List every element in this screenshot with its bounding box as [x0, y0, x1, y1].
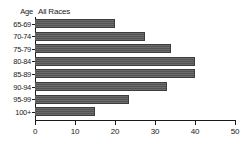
x-axis-tick-mark — [155, 121, 156, 125]
plot-area — [35, 19, 235, 119]
bar — [35, 19, 115, 28]
bar — [35, 107, 95, 116]
x-axis-tick-mark — [195, 121, 196, 125]
bar — [35, 82, 167, 91]
x-axis-tick-label: 40 — [183, 127, 207, 137]
y-axis-tick-label: 100+ — [3, 108, 31, 117]
x-axis-tick-mark — [35, 121, 36, 125]
y-axis-tick-label: 85-89 — [3, 70, 31, 79]
chart-header: Age All Races — [0, 7, 247, 19]
bar-chart: Age All Races 65-6970-7475-7980-8485-899… — [0, 0, 247, 141]
x-axis-tick-label: 0 — [23, 127, 47, 137]
y-axis-tick-label: 80-84 — [3, 57, 31, 66]
bar — [35, 57, 195, 66]
y-axis-tick-label: 75-79 — [3, 45, 31, 54]
bar — [35, 44, 171, 53]
y-axis-tick-label: 90-94 — [3, 83, 31, 92]
y-axis-tick-label: 95-99 — [3, 95, 31, 104]
x-axis-line — [35, 120, 236, 121]
bar — [35, 32, 145, 41]
x-axis-tick-label: 30 — [143, 127, 167, 137]
x-axis-tick-label: 10 — [63, 127, 87, 137]
x-axis-tick-label: 20 — [103, 127, 127, 137]
bar — [35, 69, 195, 78]
y-axis-title: Age — [8, 7, 33, 17]
x-axis-tick-mark — [75, 121, 76, 125]
y-axis-tick-label: 70-74 — [3, 32, 31, 41]
y-axis-tick-label: 65-69 — [3, 20, 31, 29]
bar — [35, 95, 129, 104]
x-axis-tick-mark — [115, 121, 116, 125]
chart-title: All Races — [38, 7, 70, 17]
x-axis-tick-label: 50 — [223, 127, 247, 137]
x-axis-tick-mark — [235, 121, 236, 125]
